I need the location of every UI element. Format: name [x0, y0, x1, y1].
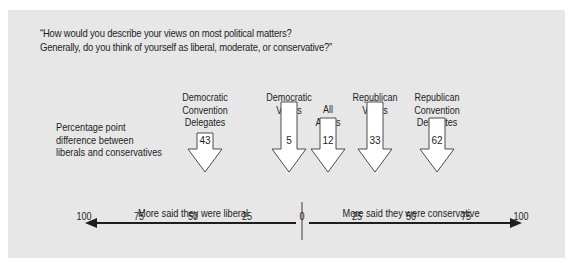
arrows-layer: 43 5 12 33 62	[0, 0, 575, 263]
tick-label: 100	[76, 211, 91, 222]
value-democratic-convention-delegates: 43	[199, 135, 211, 146]
value-all-adults: 12	[322, 135, 334, 146]
tick-label: 100	[513, 211, 528, 222]
value-republican-voters: 33	[369, 135, 381, 146]
value-republican-convention-delegates: 62	[431, 135, 443, 146]
value-democratic-voters: 5	[286, 135, 292, 146]
conservative-direction-label: More said they were conservative	[342, 208, 479, 219]
tick-label: 0	[299, 211, 304, 222]
liberal-direction-label: More said they were liberal	[138, 208, 248, 219]
